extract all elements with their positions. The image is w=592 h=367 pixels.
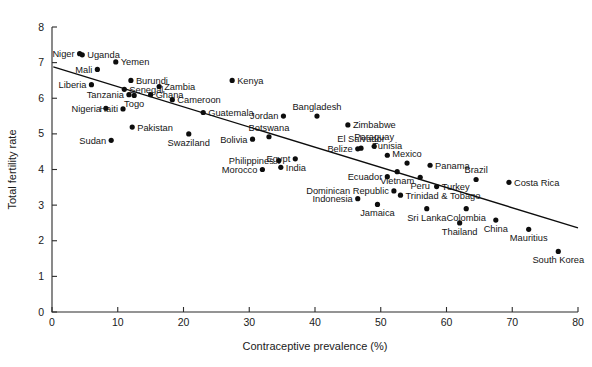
data-point-26[interactable] [355,146,360,151]
x-tick-label-80: 80 [572,316,584,328]
point-label-34: Vietnam [380,176,414,186]
x-tick-label-10: 10 [112,316,124,328]
point-label-20: Jordan [250,111,278,121]
point-label-8: Tanzania [87,90,125,100]
point-label-32: Mexico [392,149,421,159]
data-point-41[interactable] [398,193,403,198]
point-label-14: Guatemala [208,108,254,118]
data-point-19[interactable] [314,113,319,118]
data-point-44[interactable] [424,206,429,211]
point-label-9: Togo [124,99,144,109]
data-point-34[interactable] [395,169,400,174]
y-tick-label-4: 4 [38,163,44,175]
data-point-16[interactable] [109,138,114,143]
point-label-46: Thailand [442,227,478,237]
point-label-12: Haiti [99,104,118,114]
point-label-2: Mali [75,65,92,75]
point-label-48: Mauritius [510,233,548,243]
data-point-40[interactable] [391,188,396,193]
y-tick-label-2: 2 [38,234,44,246]
x-axis-title: Contraceptive prevalence (%) [243,340,388,352]
y-tick-label-6: 6 [38,92,44,104]
x-tick-label-20: 20 [178,316,190,328]
data-point-43[interactable] [375,202,380,207]
data-point-37[interactable] [473,177,478,182]
data-point-32[interactable] [404,160,409,165]
data-point-27[interactable] [385,153,390,158]
y-tick-label-1: 1 [38,270,44,282]
point-label-44: Sri Lanka [407,213,447,223]
data-point-33[interactable] [427,163,432,168]
axis-spines [52,27,578,312]
point-label-5: Liberia [59,80,88,90]
point-label-21: Zimbabwe [353,120,396,130]
data-point-15[interactable] [130,125,135,130]
data-point-21[interactable] [345,122,350,127]
data-point-42[interactable] [355,196,360,201]
data-point-17[interactable] [186,131,191,136]
data-point-30[interactable] [278,165,283,170]
data-point-36[interactable] [418,175,423,180]
point-label-18: Kenya [237,76,264,86]
point-label-13: Cameroon [177,95,220,105]
y-tick-label-5: 5 [38,127,44,139]
y-tick-label-0: 0 [38,306,44,318]
data-point-23[interactable] [250,137,255,142]
data-point-31[interactable] [260,167,265,172]
point-label-42: Indonesia [312,194,353,204]
data-point-22[interactable] [266,134,271,139]
x-tick-label-0: 0 [49,316,55,328]
chart-canvas: 01234567801020304050607080 NigerUgandaMa… [0,0,592,367]
point-label-37: Brazil [464,165,487,175]
x-tick-label-30: 30 [243,316,255,328]
x-tick-label-60: 60 [441,316,453,328]
point-label-45: Colombia [447,213,487,223]
data-point-39[interactable] [434,184,439,189]
data-point-47[interactable] [493,217,498,222]
point-label-26: Belize [327,144,352,154]
point-label-0: Niger [52,49,74,59]
scatter-chart-figure: 01234567801020304050607080 NigerUgandaMa… [0,0,592,367]
point-label-23: Bolivia [220,135,248,145]
point-label-49: South Korea [532,255,585,265]
y-tick-label-8: 8 [38,21,44,33]
data-point-4[interactable] [128,78,133,83]
data-point-1[interactable] [80,52,85,57]
y-tick-label-7: 7 [38,56,44,68]
x-tick-label-70: 70 [506,316,518,328]
y-tick-label-3: 3 [38,199,44,211]
data-point-38[interactable] [506,180,511,185]
point-label-15: Pakistan [137,123,173,133]
data-point-14[interactable] [201,110,206,115]
point-label-47: China [484,224,509,234]
data-point-49[interactable] [556,249,561,254]
point-label-35: Ecuador [348,172,383,182]
data-point-18[interactable] [230,78,235,83]
point-label-31: Morocco [222,165,258,175]
y-axis-title: Total fertility rate [6,129,18,209]
point-label-30: India [286,163,307,173]
data-point-45[interactable] [464,206,469,211]
point-label-38: Costa Rica [514,178,560,188]
point-label-19: Bangladesh [292,102,341,112]
data-point-48[interactable] [526,227,531,232]
data-point-28[interactable] [293,156,298,161]
axis-titles-group: Contraceptive prevalence (%)Total fertil… [6,129,387,352]
point-label-16: Sudan [79,136,106,146]
point-label-22: Botswana [249,123,291,133]
data-point-5[interactable] [89,82,94,87]
point-label-41: Trinidad & Tobago [405,191,480,201]
point-label-17: Swaziland [168,138,210,148]
x-tick-label-50: 50 [375,316,387,328]
point-label-3: Yemen [121,57,150,67]
data-point-20[interactable] [281,113,286,118]
point-label-43: Jamaica [360,208,395,218]
x-tick-label-40: 40 [309,316,321,328]
data-point-2[interactable] [95,67,100,72]
point-label-11: Nigeria [71,104,101,114]
point-label-1: Uganda [87,50,120,60]
